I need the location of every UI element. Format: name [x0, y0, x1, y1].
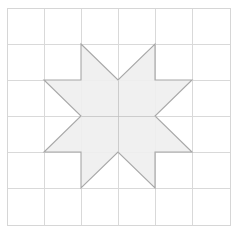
figure-canvas: Eight-Pointed Star Quilt Block A light g… [0, 0, 238, 233]
star-quilt-diagram [0, 0, 238, 233]
